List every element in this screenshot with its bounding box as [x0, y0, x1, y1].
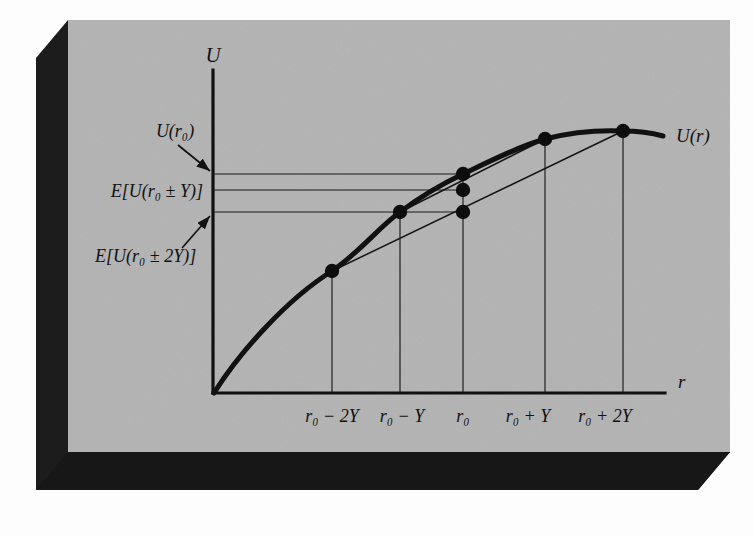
- figure-root: U r U(r): [0, 0, 753, 537]
- figure-canvas: U r U(r): [0, 0, 753, 537]
- figure-plate: [68, 20, 730, 452]
- tick-label-r0-minus-Y: r₀ − Y: [380, 406, 426, 426]
- tick-label-r0-plus-Y: r₀ + Y: [506, 406, 552, 426]
- tick-label-r0-minus-2Y: r₀ − 2Y: [305, 406, 360, 426]
- annot-label-u-r0: U(r₀): [156, 121, 194, 142]
- point-curve-r0-minus-2Y: [325, 264, 339, 278]
- curve-label: U(r): [676, 125, 710, 147]
- point-curve-r0-minus-Y: [393, 205, 407, 219]
- tick-label-r0-plus-2Y: r₀ + 2Y: [578, 406, 633, 426]
- x-tick-labels: r₀ − 2Y r₀ − Y r₀ r₀ + Y r₀ + 2Y: [305, 406, 633, 426]
- point-curve-r0-plus-Y: [538, 132, 552, 146]
- point-chord2Y-r0: [456, 205, 470, 219]
- tick-label-r0: r₀: [456, 406, 469, 426]
- annot-label-e-u-pm-2Y: E[U(r₀ ± 2Y)]: [94, 246, 196, 267]
- point-curve-r0: [456, 167, 470, 181]
- x-axis-label: r: [678, 371, 686, 392]
- y-axis-label: U: [205, 43, 222, 67]
- annot-label-e-u-pm-Y: E[U(r₀ ± Y)]: [110, 181, 203, 202]
- point-curve-r0-plus-2Y: [616, 124, 630, 138]
- point-chord1Y-r0: [456, 183, 470, 197]
